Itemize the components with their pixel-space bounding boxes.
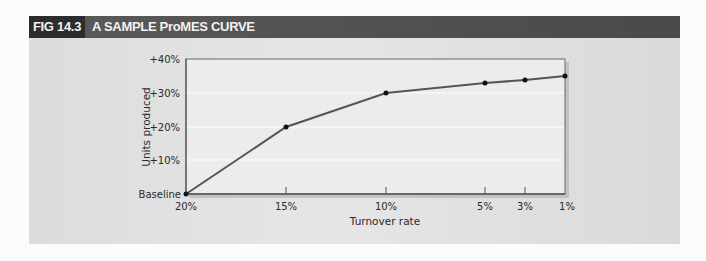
data-point	[284, 125, 289, 130]
y-tick-label: +20%	[149, 122, 180, 133]
x-axis-title: Turnover rate	[349, 215, 420, 227]
data-point	[483, 81, 488, 86]
x-tick-label: 15%	[275, 201, 297, 212]
x-tick-label: 20%	[175, 201, 197, 212]
data-point	[563, 74, 568, 79]
x-tick-label: 3%	[517, 201, 533, 212]
x-tick-labels: 20% 15% 10% 5% 3% 1%	[175, 201, 575, 212]
x-tick-label: 5%	[477, 201, 493, 212]
y-tick-label: +10%	[149, 155, 180, 166]
y-axis-title: Units produced	[140, 87, 152, 167]
x-tick-label: 10%	[375, 201, 397, 212]
line-chart: +40% +30% +20% +10% Baseline 20% 15% 10%…	[0, 0, 706, 261]
data-point	[184, 192, 189, 197]
data-point	[384, 91, 389, 96]
x-tick-label: 1%	[559, 201, 575, 212]
y-tick-label-baseline: Baseline	[139, 189, 181, 200]
y-tick-label: +40%	[149, 54, 180, 65]
data-point	[523, 78, 528, 83]
y-tick-label: +30%	[149, 88, 180, 99]
